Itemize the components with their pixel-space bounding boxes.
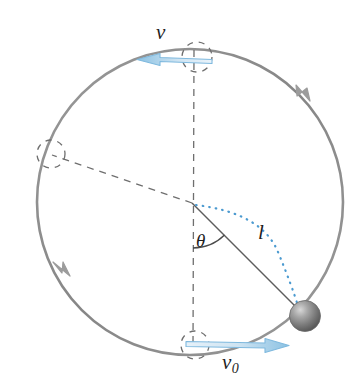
velocity-arrow-bottom: [186, 339, 289, 353]
swept-angle-dotted-arc: [196, 205, 298, 306]
angle-theta-label: θ: [196, 231, 205, 250]
velocity-initial-symbol: v: [222, 350, 231, 374]
velocity-initial-label: v0: [222, 352, 239, 376]
velocity-top-label: v: [156, 22, 165, 43]
velocity-initial-subscript: 0: [232, 361, 239, 376]
physics-diagram: v θ l v0: [0, 0, 358, 391]
left-dashed-radius: [52, 155, 192, 203]
ball: [290, 301, 321, 332]
top-position-marker: [182, 42, 212, 72]
string-length-label: l: [258, 222, 264, 243]
vertical-dashed-axis: [193, 50, 194, 348]
diagram-canvas: [0, 0, 358, 391]
